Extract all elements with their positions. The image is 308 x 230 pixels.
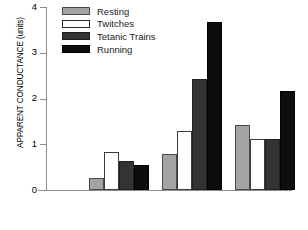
bar-running (207, 22, 222, 190)
legend-swatch-twitches (62, 20, 90, 28)
legend-label-resting: Resting (97, 6, 129, 17)
legend-item: Resting (62, 5, 187, 18)
legend-label-running: Running (97, 44, 132, 55)
x-axis-line (38, 190, 292, 191)
y-axis-tick: 1 (40, 144, 46, 145)
chart-legend: RestingTwitchesTetanic TrainsRunning (62, 5, 187, 55)
y-axis-tick: 2 (40, 99, 46, 100)
y-axis-tick: 4 (40, 7, 46, 8)
legend-label-twitches: Twitches (97, 18, 134, 29)
y-axis-tick-label: 1 (32, 138, 37, 150)
y-axis-tick-label: 3 (32, 46, 37, 58)
bar-twitches (104, 152, 119, 190)
bar-twitches (177, 131, 192, 190)
bar-tetanic (192, 79, 207, 190)
legend-item: Running (62, 43, 187, 56)
legend-item: Tetanic Trains (62, 30, 187, 43)
bar-running (280, 91, 295, 190)
bar-resting (89, 178, 104, 190)
bar-resting (162, 154, 177, 190)
y-axis-tick-label: 2 (32, 92, 37, 104)
legend-item: Twitches (62, 18, 187, 31)
y-axis-tick-label: 4 (32, 1, 37, 13)
bar-tetanic (119, 161, 134, 190)
bar-group (235, 7, 295, 190)
bar-chart-figure: APPARENT CONDUCTANCE (units) 43210 Resti… (0, 0, 308, 230)
bar-twitches (250, 139, 265, 190)
legend-swatch-resting (62, 7, 90, 15)
legend-swatch-tetanic (62, 32, 90, 40)
y-axis-title: APPARENT CONDUCTANCE (units) (16, 0, 25, 178)
y-axis-tick-label: 0 (32, 184, 37, 196)
y-axis-line (46, 7, 47, 190)
bar-tetanic (265, 139, 280, 190)
y-axis-tick: 0 (40, 190, 46, 191)
bar-running (134, 165, 149, 190)
y-axis-tick: 3 (40, 53, 46, 54)
legend-label-tetanic: Tetanic Trains (97, 31, 156, 42)
bar-resting (235, 125, 250, 190)
legend-swatch-running (62, 45, 90, 53)
